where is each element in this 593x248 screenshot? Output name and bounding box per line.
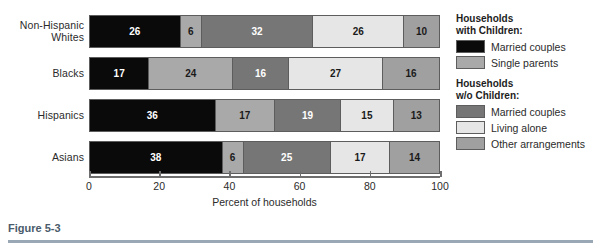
bar-segment: 36 bbox=[90, 100, 216, 131]
bar-segment: 26 bbox=[90, 16, 181, 47]
bar-segment: 19 bbox=[275, 100, 341, 131]
category-label-line: Blacks bbox=[2, 68, 84, 80]
x-axis-title: Percent of households bbox=[89, 196, 440, 208]
category-label-line: Hispanics bbox=[2, 110, 84, 122]
bar-segment-value: 17 bbox=[114, 68, 125, 79]
legend-item: Living alone bbox=[456, 121, 593, 134]
bar-segment-value: 26 bbox=[129, 26, 140, 37]
bar-segment-value: 16 bbox=[255, 68, 266, 79]
stacked-bar: 266322610 bbox=[89, 15, 440, 48]
bar-segment: 17 bbox=[331, 142, 390, 173]
axis-tick bbox=[370, 171, 372, 177]
bar-segment: 25 bbox=[244, 142, 331, 173]
bar-segment-value: 14 bbox=[409, 152, 420, 163]
bar-segment: 26 bbox=[313, 16, 404, 47]
legend-group-title-line: with Children: bbox=[456, 25, 593, 37]
legend-group-title-line: w/o Children: bbox=[456, 90, 593, 102]
figure-container: Non-HispanicWhitesBlacksHispanicsAsians … bbox=[0, 0, 593, 248]
category-label-line: Whites bbox=[2, 32, 84, 44]
axis-tick-label: 0 bbox=[86, 180, 92, 192]
legend-group-title: Householdsw/o Children: bbox=[456, 78, 593, 102]
bar-segment-value: 38 bbox=[150, 152, 161, 163]
legend-item: Married couples bbox=[456, 40, 593, 53]
x-axis-line bbox=[89, 176, 440, 178]
category-label-column: Non-HispanicWhitesBlacksHispanicsAsians bbox=[0, 0, 84, 190]
bar-segment: 32 bbox=[202, 16, 314, 47]
legend-swatch-icon bbox=[456, 137, 485, 150]
category-label-line: Asians bbox=[2, 152, 84, 164]
legend-item-label: Other arrangements bbox=[491, 138, 585, 150]
axis-tick bbox=[300, 171, 302, 177]
chart-legend: Householdswith Children:Married couplesS… bbox=[456, 13, 593, 159]
bar-segment-value: 10 bbox=[416, 26, 427, 37]
bar-segment-value: 17 bbox=[239, 110, 250, 121]
bar-segment-value: 36 bbox=[147, 110, 158, 121]
bar-segment: 6 bbox=[181, 16, 202, 47]
bar-segment: 38 bbox=[90, 142, 223, 173]
stacked-bar: 386251714 bbox=[89, 141, 440, 174]
bar-segment-value: 32 bbox=[251, 26, 262, 37]
axis-tick bbox=[159, 171, 161, 177]
bar-segment: 16 bbox=[383, 58, 439, 89]
bar-segment: 14 bbox=[390, 142, 439, 173]
bar-segment-value: 24 bbox=[185, 68, 196, 79]
bar-segment-value: 19 bbox=[302, 110, 313, 121]
figure-caption: Figure 5-3 bbox=[8, 222, 61, 234]
legend-item-label: Married couples bbox=[491, 106, 566, 118]
legend-item: Married couples bbox=[456, 105, 593, 118]
category-label: Asians bbox=[2, 152, 84, 164]
legend-item-label: Married couples bbox=[491, 41, 566, 53]
legend-item: Single parents bbox=[456, 56, 593, 69]
axis-tick-label: 20 bbox=[153, 180, 165, 192]
category-label-line: Non-Hispanic bbox=[2, 20, 84, 32]
bar-segment-value: 25 bbox=[281, 152, 292, 163]
bar-segment-value: 26 bbox=[353, 26, 364, 37]
bar-segment-value: 13 bbox=[411, 110, 422, 121]
legend-item-label: Single parents bbox=[491, 57, 558, 69]
bar-segment-value: 17 bbox=[354, 152, 365, 163]
axis-tick bbox=[440, 171, 442, 177]
legend-swatch-icon bbox=[456, 40, 485, 53]
bar-segment: 24 bbox=[149, 58, 233, 89]
legend-group-title-line: Households bbox=[456, 78, 593, 90]
bar-segment-value: 6 bbox=[230, 152, 236, 163]
axis-tick bbox=[89, 171, 91, 177]
caption-divider bbox=[8, 240, 593, 243]
axis-tick-label: 60 bbox=[294, 180, 306, 192]
legend-item: Other arrangements bbox=[456, 137, 593, 150]
legend-group-title-line: Households bbox=[456, 13, 593, 25]
bar-segment: 16 bbox=[233, 58, 289, 89]
stacked-bar: 1724162716 bbox=[89, 57, 440, 90]
bar-segment-value: 15 bbox=[361, 110, 372, 121]
bar-segment: 17 bbox=[90, 58, 149, 89]
axis-tick-label: 40 bbox=[224, 180, 236, 192]
legend-swatch-icon bbox=[456, 105, 485, 118]
bar-segment: 10 bbox=[404, 16, 439, 47]
bar-segment: 15 bbox=[341, 100, 393, 131]
legend-swatch-icon bbox=[456, 56, 485, 69]
bar-segment-value: 27 bbox=[330, 68, 341, 79]
bar-segment-value: 6 bbox=[188, 26, 194, 37]
bar-segment: 27 bbox=[289, 58, 383, 89]
bar-segment: 13 bbox=[394, 100, 439, 131]
bar-segment: 6 bbox=[223, 142, 244, 173]
stacked-bar-plot-area: 26632261017241627163617191513386251714 bbox=[89, 14, 440, 175]
axis-tick-label: 80 bbox=[364, 180, 376, 192]
bar-segment-value: 16 bbox=[405, 68, 416, 79]
axis-tick bbox=[229, 171, 231, 177]
stacked-bar: 3617191513 bbox=[89, 99, 440, 132]
axis-tick-label: 100 bbox=[431, 180, 449, 192]
bar-segment: 17 bbox=[216, 100, 275, 131]
category-label: Hispanics bbox=[2, 110, 84, 122]
legend-swatch-icon bbox=[456, 121, 485, 134]
legend-group: Householdsw/o Children:Married couplesLi… bbox=[456, 78, 593, 150]
legend-item-label: Living alone bbox=[491, 122, 547, 134]
category-label: Blacks bbox=[2, 68, 84, 80]
category-label: Non-HispanicWhites bbox=[2, 20, 84, 43]
legend-group: Householdswith Children:Married couplesS… bbox=[456, 13, 593, 69]
legend-group-title: Householdswith Children: bbox=[456, 13, 593, 37]
